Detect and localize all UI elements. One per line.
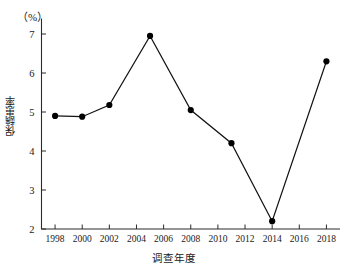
data-point: [228, 140, 234, 146]
x-axis-ticks: 1998200020022004200620082010201220142016…: [46, 225, 337, 245]
y-tick-label: 6: [29, 68, 34, 79]
data-point: [79, 114, 85, 120]
x-tick-label: 2012: [236, 234, 255, 244]
data-point: [147, 33, 153, 39]
data-point: [188, 107, 194, 113]
data-series: [52, 33, 330, 224]
x-tick-label: 2018: [317, 234, 336, 244]
data-point: [52, 113, 58, 119]
series-line: [55, 36, 326, 221]
y-tick-label: 7: [29, 29, 34, 40]
x-tick-label: 2008: [181, 234, 200, 244]
y-tick-label: 5: [29, 107, 34, 118]
data-point: [323, 58, 329, 64]
x-tick-label: 2006: [154, 234, 173, 244]
x-tick-label: 1998: [46, 234, 65, 244]
axes: [42, 18, 341, 229]
y-tick-label: 3: [29, 185, 34, 196]
x-tick-label: 2010: [208, 234, 227, 244]
y-tick-label: 2: [29, 224, 34, 235]
chart-container: （%） 保龋患率 234567 199820002002200420062008…: [0, 0, 348, 272]
x-tick-label: 2000: [73, 234, 92, 244]
data-point: [269, 218, 275, 224]
x-tick-label: 2004: [127, 234, 146, 244]
y-axis-ticks: 234567: [29, 29, 46, 235]
y-tick-label: 4: [29, 146, 35, 157]
data-point: [106, 102, 112, 108]
line-chart-plot: 234567 199820002002200420062008201020122…: [0, 0, 348, 272]
x-axis-title: 调查年度: [0, 250, 348, 265]
x-tick-label: 2002: [100, 234, 119, 244]
x-tick-label: 2014: [263, 234, 282, 244]
x-tick-label: 2016: [290, 234, 309, 244]
